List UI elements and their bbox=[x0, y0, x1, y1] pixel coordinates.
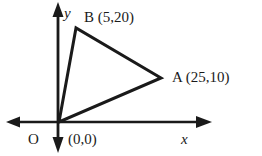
x-axis-right-arrowhead bbox=[196, 116, 212, 128]
y-axis bbox=[53, 2, 64, 153]
point-label-b: B (5,20) bbox=[84, 10, 134, 25]
x-axis-label: x bbox=[181, 132, 188, 147]
triangle-oab bbox=[59, 28, 161, 122]
y-axis-down-arrowhead bbox=[53, 137, 64, 153]
origin-coordinates-label: (0,0) bbox=[68, 132, 97, 147]
y-axis-up-arrowhead bbox=[53, 2, 64, 17]
y-axis-label: y bbox=[64, 6, 71, 21]
coordinate-diagram: B (5,20) A (25,10) y x O (0,0) bbox=[0, 0, 262, 156]
origin-label: O bbox=[28, 132, 39, 147]
point-label-a: A (25,10) bbox=[172, 70, 230, 85]
x-axis-left-arrowhead bbox=[6, 117, 20, 128]
x-axis bbox=[6, 116, 212, 128]
